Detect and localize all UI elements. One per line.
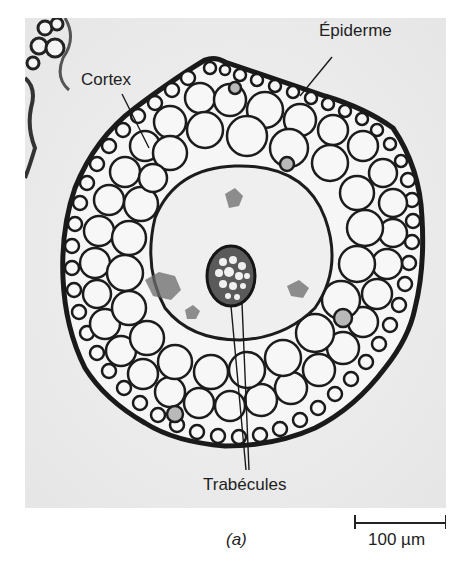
scale-bar-label: 100 µm bbox=[368, 531, 425, 548]
scale-bar-line bbox=[354, 522, 446, 524]
scale-bar bbox=[354, 515, 446, 527]
vascular-cylinder bbox=[207, 246, 255, 306]
cortex-label: Cortex bbox=[81, 71, 131, 88]
scale-bar-right-tick bbox=[445, 515, 447, 529]
trabeculae-label: Trabécules bbox=[203, 476, 286, 493]
micrograph-panel bbox=[25, 18, 446, 508]
root-cross-section-micrograph bbox=[25, 18, 446, 508]
epidermis-label: Épiderme bbox=[319, 22, 392, 39]
panel-label: (a) bbox=[226, 531, 247, 548]
